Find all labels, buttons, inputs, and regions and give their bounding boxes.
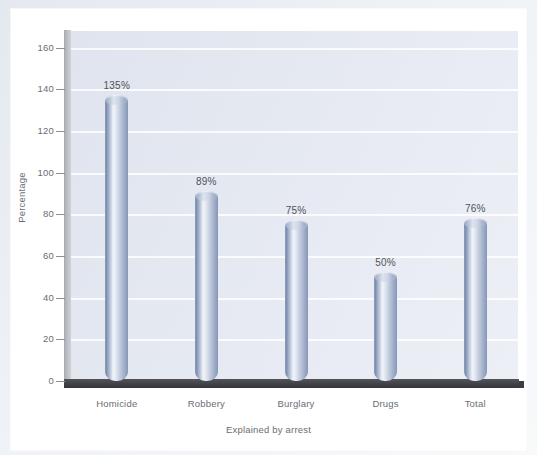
bar-top-cap [285, 220, 308, 230]
gridline [70, 131, 518, 133]
bar-body [464, 223, 487, 381]
y-axis-tick [56, 89, 65, 90]
bar-top-cap [374, 272, 397, 282]
gridline [70, 173, 518, 175]
y-axis-tick [56, 381, 65, 382]
bar-body [285, 225, 308, 381]
x-axis-category-label: Drugs [336, 398, 436, 409]
bar-top-cap [464, 218, 487, 228]
x-axis-category-label: Robbery [156, 398, 256, 409]
y-axis-tick [56, 173, 65, 174]
y-axis-tick [56, 131, 65, 132]
bar-chart: 020406080100120140160 Percentage 135%89%… [0, 0, 537, 455]
y-axis-spine [64, 30, 71, 388]
bar-body [374, 277, 397, 381]
y-axis-tick [56, 256, 65, 257]
bar[interactable]: 135% [105, 100, 128, 381]
y-axis-tick [56, 214, 65, 215]
y-axis-tick-label: 40 [20, 293, 54, 303]
y-axis-tick-label: 0 [20, 376, 54, 386]
bar-top-cap [105, 95, 128, 105]
bar-body [195, 196, 218, 381]
bar-value-label: 135% [73, 80, 160, 91]
x-axis-category-label: Homicide [67, 398, 167, 409]
y-axis-tick-label: 140 [20, 84, 54, 94]
bar[interactable]: 75% [285, 225, 308, 381]
y-axis-tick [56, 339, 65, 340]
y-axis-title: Percentage [16, 158, 27, 238]
x-axis-category-label: Total [425, 398, 525, 409]
bar-top-cap [195, 191, 218, 201]
bar[interactable]: 50% [374, 277, 397, 381]
bar-body [105, 100, 128, 381]
x-axis-category-label: Burglary [246, 398, 346, 409]
bar-value-label: 50% [342, 257, 429, 268]
bar-value-label: 76% [432, 203, 519, 214]
y-axis-tick-label: 60 [20, 251, 54, 261]
y-axis-tick [56, 48, 65, 49]
y-axis-tick-label: 120 [20, 126, 54, 136]
figure-root: 020406080100120140160 Percentage 135%89%… [0, 0, 537, 455]
bar-value-label: 75% [253, 205, 340, 216]
y-axis-tick-label: 160 [20, 43, 54, 53]
x-axis-title: Explained by arrest [0, 424, 537, 435]
y-axis-tick-label: 20 [20, 334, 54, 344]
y-axis-tick [56, 298, 65, 299]
bar[interactable]: 89% [195, 196, 218, 381]
gridline [70, 48, 518, 50]
bar-value-label: 89% [163, 176, 250, 187]
bar[interactable]: 76% [464, 223, 487, 381]
